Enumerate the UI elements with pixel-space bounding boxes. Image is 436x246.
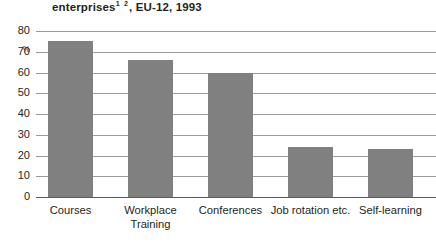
y-axis-tick-label: 70 (18, 46, 30, 57)
axis-baseline (36, 197, 436, 198)
y-axis-tick-label: 60 (18, 67, 30, 78)
gridline (36, 52, 436, 53)
y-axis-tick-label: 30 (18, 129, 30, 140)
chart-title-block: enterprises1 2, EU-12, 1993 (52, 0, 432, 14)
bar (288, 147, 333, 197)
y-axis-tick-label: 80 (18, 25, 30, 36)
chart-figure: enterprises1 2, EU-12, 1993 % 8070605040… (0, 0, 436, 246)
bar (208, 73, 253, 198)
bar (368, 149, 413, 197)
y-axis-tick-label: 0 (24, 191, 30, 202)
x-axis-tick-label-line: Training (96, 217, 206, 231)
y-axis-tick-label: 50 (18, 87, 30, 98)
gridline (36, 31, 436, 32)
bar (128, 60, 173, 197)
title-footnote-markers: 1 2 (116, 0, 129, 7)
x-axis-tick-label: Self-learning (336, 203, 436, 217)
y-axis-tick-label: 20 (18, 150, 30, 161)
title-rest-text: , EU-12, 1993 (129, 1, 202, 13)
x-axis-tick-label-line: Self-learning (336, 203, 436, 217)
plot-area (36, 31, 436, 197)
bar (48, 41, 93, 197)
y-axis-tick-label: 40 (18, 108, 30, 119)
x-axis-labels: CoursesWorkplaceTrainingConferencesJob r… (36, 203, 436, 245)
y-axis-tick-label: 10 (18, 170, 30, 181)
y-axis: % 80706050403020100 (0, 31, 34, 211)
page-title: enterprises1 2, EU-12, 1993 (52, 0, 432, 14)
title-main-text: enterprises (52, 1, 116, 13)
